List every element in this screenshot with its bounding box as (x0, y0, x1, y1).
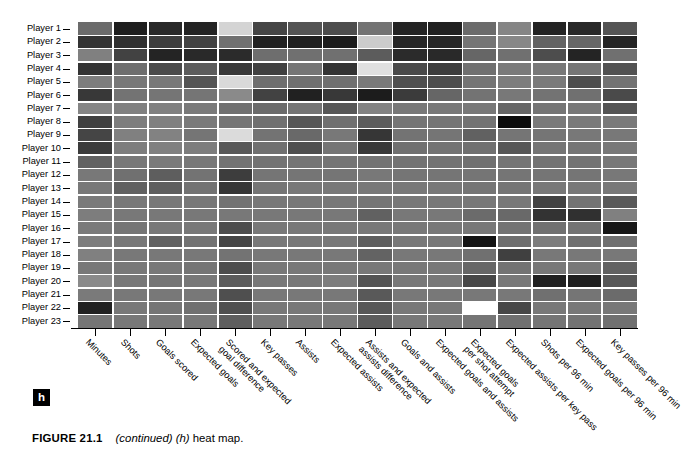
y-axis-label: Player 10 (22, 142, 61, 155)
heatmap-cell (78, 195, 113, 208)
heatmap-cell (567, 168, 602, 181)
x-axis-tick (515, 329, 516, 336)
y-axis-tick (63, 122, 70, 123)
heatmap-cell (253, 235, 288, 248)
heatmap-plot-area (78, 22, 637, 328)
heatmap-cell (602, 182, 637, 195)
heatmap-cell (532, 102, 567, 115)
y-axis-tick (63, 308, 70, 309)
heatmap-cell (427, 168, 462, 181)
heatmap-cell (358, 128, 393, 141)
heatmap-cell (427, 62, 462, 75)
heatmap-cell (427, 89, 462, 102)
heatmap-cell (113, 89, 148, 102)
heatmap-cell (323, 89, 358, 102)
heatmap-cell (392, 288, 427, 301)
heatmap-cell (427, 288, 462, 301)
heatmap-cell (253, 102, 288, 115)
heatmap-cell (462, 22, 497, 35)
heatmap-cell (288, 115, 323, 128)
heatmap-cell (148, 35, 183, 48)
heatmap-grid (78, 22, 637, 328)
y-axis-tick (63, 255, 70, 256)
y-axis-tick (63, 295, 70, 296)
heatmap-cell (392, 62, 427, 75)
x-axis-label: Assists (294, 337, 322, 365)
y-axis-label: Player 15 (22, 208, 61, 221)
heatmap-cell (218, 248, 253, 261)
heatmap-cell (323, 49, 358, 62)
heatmap-cell (148, 222, 183, 235)
x-axis-tick (480, 329, 481, 336)
y-axis-label: Player 9 (27, 128, 61, 141)
x-axis-label-line: Assists and expected (364, 337, 433, 406)
heatmap-cell (78, 315, 113, 328)
heatmap-cell (602, 222, 637, 235)
heatmap-cell (253, 75, 288, 88)
caption-text: heat map. (193, 432, 244, 444)
heatmap-cell (253, 35, 288, 48)
heatmap-cell (288, 275, 323, 288)
heatmap-cell (323, 142, 358, 155)
x-axis-label: Shots (119, 337, 143, 361)
heatmap-cell (358, 115, 393, 128)
heatmap-cell (113, 288, 148, 301)
heatmap-cell (462, 128, 497, 141)
heatmap-cell (183, 222, 218, 235)
heatmap-cell (462, 89, 497, 102)
heatmap-cell (462, 182, 497, 195)
heatmap-cell (567, 275, 602, 288)
heatmap-cell (253, 222, 288, 235)
heatmap-cell (218, 22, 253, 35)
heatmap-cell (113, 235, 148, 248)
x-axis-tick (130, 329, 131, 336)
heatmap-cell (288, 155, 323, 168)
y-axis-tick (63, 215, 70, 216)
heatmap-cell (497, 128, 532, 141)
heatmap-cell (497, 235, 532, 248)
heatmap-cell (567, 115, 602, 128)
heatmap-cell (288, 208, 323, 221)
heatmap-cell (183, 62, 218, 75)
heatmap-cell (148, 182, 183, 195)
heatmap-cell (183, 142, 218, 155)
heatmap-cell (602, 115, 637, 128)
heatmap-cell (78, 115, 113, 128)
heatmap-cell (218, 35, 253, 48)
heatmap-cell (392, 115, 427, 128)
heatmap-cell (253, 142, 288, 155)
heatmap-cell (218, 261, 253, 274)
heatmap-cell (148, 248, 183, 261)
heatmap-cell (113, 182, 148, 195)
heatmap-cell (288, 261, 323, 274)
y-axis-label: Player 6 (27, 89, 61, 102)
x-axis-tick (445, 329, 446, 336)
heatmap-cell (218, 168, 253, 181)
heatmap-cell (78, 128, 113, 141)
heatmap-cell (148, 208, 183, 221)
heatmap-row (78, 62, 637, 75)
heatmap-cell (253, 89, 288, 102)
heatmap-cell (183, 182, 218, 195)
heatmap-cell (253, 22, 288, 35)
heatmap-cell (427, 275, 462, 288)
y-axis-tick (63, 321, 70, 322)
heatmap-cell (288, 195, 323, 208)
heatmap-cell (602, 301, 637, 314)
heatmap-cell (427, 195, 462, 208)
x-axis-label-line: Scored and expected (224, 337, 293, 406)
heatmap-cell (113, 168, 148, 181)
heatmap-cell (323, 208, 358, 221)
heatmap-cell (392, 182, 427, 195)
heatmap-cell (253, 195, 288, 208)
heatmap-cell (288, 222, 323, 235)
heatmap-cell (183, 288, 218, 301)
caption-figure-number: FIGURE 21.1 (32, 432, 103, 444)
heatmap-cell (288, 248, 323, 261)
heatmap-cell (113, 75, 148, 88)
heatmap-cell (358, 49, 393, 62)
heatmap-cell (183, 35, 218, 48)
y-axis-label: Player 18 (22, 248, 61, 261)
heatmap-cell (288, 62, 323, 75)
